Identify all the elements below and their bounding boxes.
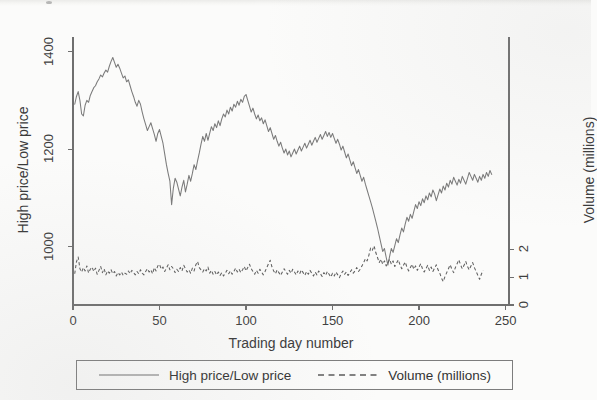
x-tick-label: 150 <box>313 314 353 327</box>
x-axis-ticks <box>73 305 506 310</box>
legend-entry-volume: Volume (millions) <box>317 368 491 383</box>
right-tick-label: 2 <box>517 241 530 257</box>
right-tick-label: 1 <box>517 269 530 285</box>
left-tick-label: 1400 <box>42 34 55 68</box>
x-tick-label: 100 <box>226 314 266 327</box>
chart-legend: High price/Low price Volume (millions) <box>76 360 513 390</box>
legend-swatch-solid-icon <box>98 370 160 380</box>
legend-label-price: High price/Low price <box>169 368 291 383</box>
legend-entry-price: High price/Low price <box>98 368 291 383</box>
left-axis-ticks <box>68 52 73 247</box>
x-tick-label: 200 <box>399 314 439 327</box>
right-axis-title: Volume (millions) <box>582 95 596 245</box>
legend-label-volume: Volume (millions) <box>388 368 491 383</box>
x-tick-label: 50 <box>140 314 180 327</box>
left-tick-label: 1200 <box>42 132 55 166</box>
right-tick-label: 0 <box>517 297 530 313</box>
left-axis-title: High price/Low price <box>16 80 30 260</box>
x-tick-label: 250 <box>486 314 526 327</box>
legend-swatch-dashed-icon <box>317 370 379 380</box>
right-axis-ticks <box>509 249 514 305</box>
left-tick-label: 1000 <box>42 229 55 263</box>
volume-series-line <box>75 246 483 282</box>
x-axis-title: Trading day number <box>73 336 509 350</box>
price-series-line <box>75 57 492 265</box>
x-tick-label: 0 <box>53 314 93 327</box>
